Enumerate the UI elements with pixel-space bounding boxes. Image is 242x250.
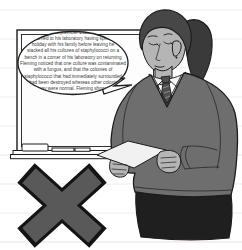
incorrect-x-icon: [26, 173, 98, 238]
skirt: [136, 190, 232, 240]
earring: [176, 57, 178, 59]
board-eraser: [22, 144, 48, 151]
tie-knot: [161, 76, 170, 83]
bubble-line: returned to his laboratory having spent …: [31, 36, 115, 41]
bubble-line: bench in a corner of his laboratory on r…: [24, 55, 122, 60]
sweater: [111, 73, 238, 197]
bubble-line: Fleming noticed that one culture was con…: [20, 61, 126, 66]
bubble-line: away were normal. Fleming showed: [36, 86, 111, 91]
marker: [52, 148, 74, 151]
bubble-line: with a fungus, and that the colonies of: [34, 67, 113, 72]
bubble-line: stacked all his cultures of staphylococc…: [27, 48, 120, 53]
marker: [75, 148, 90, 151]
bubble-line: it had been destroyed whereas other colo…: [26, 80, 121, 85]
right-hand: [157, 150, 181, 173]
bubble-line: staphylococci that had immediately surro…: [24, 74, 122, 79]
bubble-line: holiday with his family before leaving h…: [32, 42, 115, 47]
classroom-illustration: in September 1928 he returned to his lab…: [0, 0, 242, 250]
illustration-panel: in September 1928 he returned to his lab…: [0, 0, 242, 250]
